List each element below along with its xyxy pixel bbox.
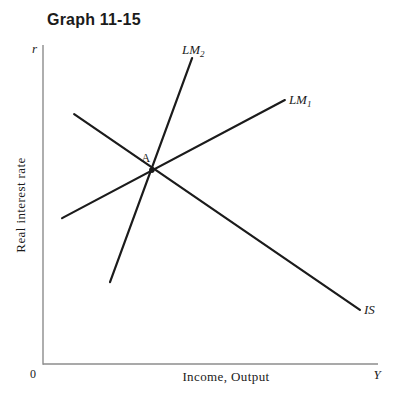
x-axis-end-label: Y: [373, 367, 382, 382]
curve-layer: ISLM1LM2A: [62, 42, 375, 317]
graph-figure: Graph 11-15 r 0 Y Income, Output Real in…: [0, 0, 405, 407]
curve-label-lm2: LM2: [181, 42, 205, 59]
x-axis-title: Income, Output: [182, 369, 269, 384]
point-a-label: A: [142, 151, 151, 165]
curve-label-lm1: LM1: [288, 92, 312, 109]
y-axis-title: Real interest rate: [13, 157, 28, 252]
y-axis-top-label: r: [32, 41, 38, 56]
curve-lm1: [62, 100, 285, 218]
curve-label-is: IS: [363, 302, 375, 317]
point-a-marker: [149, 167, 155, 173]
graph-svg: r 0 Y Income, Output Real interest rate …: [0, 0, 405, 407]
axes: [43, 45, 378, 365]
curve-is: [74, 114, 360, 310]
origin-label: 0: [30, 367, 36, 381]
